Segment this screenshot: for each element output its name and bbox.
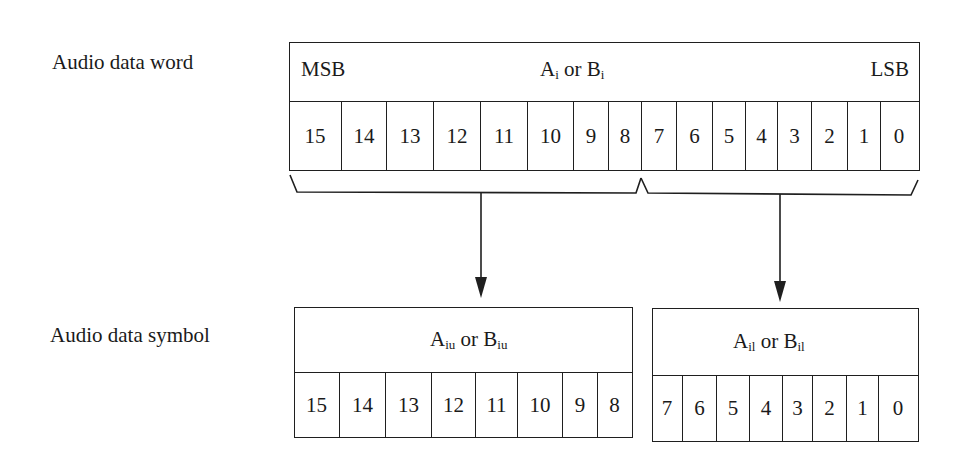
upper-byte-arrow xyxy=(475,193,487,298)
upper-byte-brace xyxy=(290,175,641,193)
lower-byte-brace xyxy=(641,178,918,195)
lower-byte-arrow xyxy=(774,194,786,302)
connectors xyxy=(0,0,960,467)
